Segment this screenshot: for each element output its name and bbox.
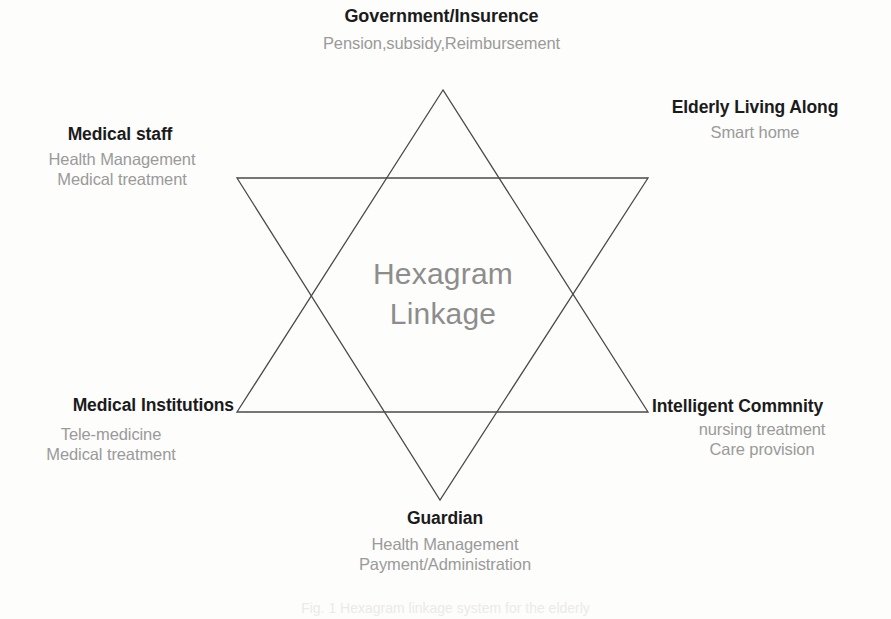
node-medical-staff: Medical staff Health Management Medical … — [8, 124, 236, 190]
center-label: Hexagram Linkage — [343, 254, 543, 333]
hexagram-diagram: Hexagram Linkage Government/Insurence Pe… — [0, 0, 891, 619]
node-intelligent-community-detail-1: nursing treatment — [652, 419, 872, 439]
node-medical-institutions-detail-2: Medical treatment — [8, 444, 214, 464]
figure-caption: Fig. 1 Hexagram linkage system for the e… — [0, 600, 891, 619]
node-guardian-details: Health Management Payment/Administration — [265, 534, 625, 574]
node-intelligent-community: Intelligent Commnity nursing treatment C… — [652, 396, 890, 460]
node-medical-institutions-detail-1: Tele-medicine — [8, 424, 214, 444]
node-government-details: Pension,subsidy,Reimbursement — [239, 33, 644, 53]
node-intelligent-community-title: Intelligent Commnity — [652, 396, 890, 417]
node-elderly-living-along: Elderly Living Along Smart home — [620, 97, 890, 142]
node-intelligent-community-details: nursing treatment Care provision — [652, 419, 890, 459]
node-elderly-living-along-detail-1: Smart home — [620, 122, 890, 142]
node-guardian: Guardian Health Management Payment/Admin… — [265, 508, 625, 575]
center-label-line-2: Linkage — [343, 294, 543, 334]
node-guardian-detail-1: Health Management — [265, 534, 625, 554]
node-government-title: Government/Insurence — [239, 6, 644, 28]
node-medical-staff-details: Health Management Medical treatment — [8, 149, 236, 189]
center-label-line-1: Hexagram — [343, 254, 543, 294]
node-elderly-living-along-title: Elderly Living Along — [620, 97, 890, 118]
node-medical-staff-detail-2: Medical treatment — [8, 169, 236, 189]
node-intelligent-community-detail-2: Care provision — [652, 439, 872, 459]
upward-triangle — [237, 90, 648, 412]
node-medical-institutions: Medical Institutions Tele-medicine Medic… — [8, 395, 236, 465]
node-medical-institutions-details: Tele-medicine Medical treatment — [8, 424, 236, 464]
node-government: Government/Insurence Pension,subsidy,Rei… — [239, 6, 644, 53]
node-medical-institutions-title: Medical Institutions — [8, 395, 236, 416]
node-elderly-living-along-details: Smart home — [620, 122, 890, 142]
node-medical-staff-title: Medical staff — [8, 124, 236, 145]
node-guardian-detail-2: Payment/Administration — [265, 554, 625, 574]
node-medical-staff-detail-1: Health Management — [8, 149, 236, 169]
downward-triangle — [237, 178, 648, 500]
node-government-detail-1: Pension,subsidy,Reimbursement — [239, 33, 644, 53]
node-guardian-title: Guardian — [265, 508, 625, 529]
